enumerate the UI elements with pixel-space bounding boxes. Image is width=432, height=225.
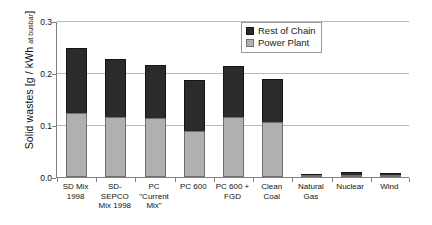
legend-entry: Power Plant [246, 37, 316, 49]
bar-segment-power-plant [341, 175, 362, 177]
x-axis-label-line: PC 600 + [216, 182, 250, 191]
y-axis-title-close: ] [23, 11, 35, 14]
x-axis-label-line: Natural [298, 182, 324, 191]
y-axis-tick-label: 0.2 [30, 70, 52, 79]
bar-segment-power-plant [380, 175, 401, 177]
bar-segment-rest-of-chain [105, 59, 126, 117]
y-axis-tick-label: 0.3 [30, 18, 52, 27]
x-axis-label-line: Coal [263, 192, 279, 201]
x-axis-label-line: Clean [261, 182, 282, 191]
bar-stack [105, 59, 126, 177]
y-axis-tick-mark [52, 178, 56, 179]
bar-stack [301, 174, 322, 178]
bar-stack [341, 172, 362, 177]
legend-label: Power Plant [258, 37, 309, 49]
bar-stack [66, 48, 87, 177]
x-axis-label-line: PC 600 [180, 182, 207, 191]
x-axis-label-line: Mix 1998 [99, 201, 131, 210]
x-axis-label-line: Mix" [146, 201, 161, 210]
legend-entry: Rest of Chain [246, 25, 316, 37]
legend-label: Rest of Chain [258, 25, 316, 37]
bar-segment-power-plant [301, 175, 322, 177]
bar-segment-power-plant [262, 122, 283, 177]
bar-stack [145, 65, 166, 177]
bar-stack [184, 80, 205, 177]
x-axis-label-line: "Current [139, 192, 169, 201]
bar-segment-power-plant [145, 118, 166, 177]
x-axis-category-label: Wind [366, 182, 413, 192]
plot-area [56, 22, 409, 178]
bar-segment-rest-of-chain [184, 80, 205, 130]
x-axis-label-line: PC [148, 182, 159, 191]
chart-figure: Solid wastes [g / kWh at busbar] 0.00.10… [0, 0, 432, 225]
x-axis-label-line: Gas [304, 192, 319, 201]
gridline [57, 21, 409, 22]
x-axis-label-line: Nuclear [336, 182, 364, 191]
bar-stack [380, 173, 401, 177]
y-axis-tick-label: 0.0 [30, 174, 52, 183]
x-axis-label-line: Wind [380, 182, 398, 191]
x-axis-label-line: FGD [224, 192, 241, 201]
bar-segment-rest-of-chain [66, 48, 87, 113]
bar-segment-rest-of-chain [145, 65, 166, 118]
bar-segment-rest-of-chain [262, 79, 283, 122]
x-axis-label-line: SD- [108, 182, 122, 191]
light-square-swatch-icon [246, 39, 254, 47]
chart-legend: Rest of ChainPower Plant [241, 22, 322, 53]
dark-square-swatch-icon [246, 27, 254, 35]
bar-segment-power-plant [223, 117, 244, 177]
bar-segment-rest-of-chain [223, 66, 244, 116]
bar-segment-power-plant [105, 117, 126, 177]
x-axis-label-line: 1998 [67, 192, 85, 201]
y-axis-tick-label: 0.1 [30, 122, 52, 131]
bar-segment-power-plant [66, 113, 87, 177]
bar-segment-power-plant [184, 131, 205, 177]
x-axis-label-line: SEPCO [101, 192, 129, 201]
bar-stack [262, 79, 283, 177]
x-axis-label-line: SD Mix [63, 182, 89, 191]
bar-stack [223, 66, 244, 177]
y-axis-title-main: Solid wastes [g / kWh [23, 44, 35, 150]
